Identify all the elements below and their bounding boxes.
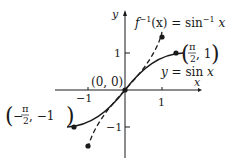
arcsin-label-x: x bbox=[215, 16, 226, 30]
sine-label-eq: = sin bbox=[168, 65, 207, 79]
pi-denominator: 2 bbox=[190, 54, 196, 64]
point-label-neg-pi-over-2: ( − π 2 , −1 ) bbox=[5, 103, 75, 128]
sine-label-x: x bbox=[207, 65, 214, 79]
pi-numerator: π bbox=[22, 103, 29, 114]
y-tick-label-neg1: −1 bbox=[106, 121, 122, 134]
paren-close-icon: ) bbox=[66, 103, 75, 128]
sine-label: y = sin x bbox=[160, 65, 214, 79]
y-tick-label-pos1: 1 bbox=[114, 47, 121, 60]
arcsin-label-exp: −1 bbox=[139, 15, 151, 24]
arcsin-label-exp2: −1 bbox=[203, 15, 215, 24]
paren-close-icon: ) bbox=[211, 41, 220, 66]
origin-label: (0, 0) bbox=[91, 75, 123, 89]
point-arcsin-bottom bbox=[85, 143, 90, 148]
arcsin-label: f−1(x) = sin−1 x bbox=[134, 15, 225, 30]
x-tick-label-pos1: 1 bbox=[158, 96, 165, 109]
pi-denominator: 2 bbox=[23, 116, 29, 126]
inverse-sine-graph: y x −1 1 1 −1 (0, 0) y = sin x f−1(x) = … bbox=[0, 0, 240, 164]
y-axis-label: y bbox=[111, 8, 119, 21]
x-tick-label-neg1: −1 bbox=[76, 92, 92, 105]
point-arcsin-top bbox=[159, 34, 164, 39]
point-label-rest: , −1 bbox=[29, 109, 54, 123]
pi-numerator: π bbox=[189, 41, 196, 52]
point-sin-top bbox=[173, 50, 178, 55]
point-label-pi-over-2: ( π 2 , 1 ) bbox=[181, 41, 220, 66]
arcsin-label-arg: (x) = sin bbox=[151, 16, 203, 30]
axes bbox=[55, 12, 198, 158]
point-label-rest: , 1 bbox=[196, 47, 211, 61]
y-axis-arrow-icon bbox=[123, 10, 127, 16]
